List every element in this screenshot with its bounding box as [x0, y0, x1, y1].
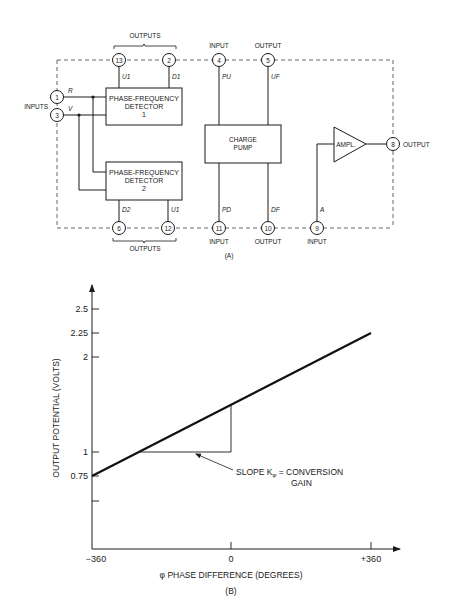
pin-8: 8	[391, 141, 395, 148]
y-tick-0-75: 0.75	[70, 471, 88, 481]
x-tick-minus-360: −360	[86, 554, 106, 564]
pin-10-role: OUTPUT	[255, 238, 282, 245]
x-tick-plus-360: +360	[361, 554, 381, 564]
pin-13: 13	[115, 57, 123, 64]
pfd1-block: PHASE-FREQUENCY DETECTOR 1	[106, 88, 182, 125]
pfd2-number: 2	[142, 185, 146, 192]
pfd1-label: DETECTOR	[125, 103, 163, 110]
pin-2: 2	[167, 57, 171, 64]
inputs-label: INPUTS	[24, 103, 49, 110]
charge-pump-label: PUMP	[234, 144, 253, 151]
y-axis-label: OUTPUT POTENTIAL (VOLTS)	[51, 358, 61, 477]
transfer-line	[92, 333, 371, 476]
pin-4-role: INPUT	[209, 42, 229, 49]
pin-6: 6	[117, 225, 121, 232]
slope-annotation-gain: GAIN	[291, 478, 312, 488]
signal-r: R	[68, 87, 73, 94]
caption-b: (B)	[225, 586, 237, 596]
pin-10: 10	[264, 225, 272, 232]
y-tick-2-25: 2.25	[70, 328, 88, 338]
annotation-arrow	[196, 454, 233, 470]
y-tick-2-5: 2.5	[75, 304, 88, 314]
amplifier-label: AMPL.	[336, 141, 356, 148]
junction-dots	[77, 95, 94, 116]
signal-pu: PU	[222, 73, 231, 80]
signal-v: V	[68, 105, 73, 112]
outputs-bottom-label: OUTPUTS	[129, 245, 161, 252]
pin-11-role: INPUT	[209, 238, 229, 245]
signal-uf: UF	[271, 73, 281, 80]
pin-9-role: INPUT	[307, 238, 327, 245]
signal-df: DF	[271, 206, 281, 213]
signal-u1-top: U1	[122, 73, 131, 80]
y-tick-labels: 2.5 2.25 2 1 0.75	[70, 304, 88, 481]
x-axis-label: φ PHASE DIFFERENCE (DEGREES)	[160, 570, 303, 580]
pin-11: 11	[216, 225, 223, 232]
y-tick-1: 1	[83, 447, 88, 457]
signal-d1: D1	[172, 73, 181, 80]
pfd2-block: PHASE-FREQUENCY DETECTOR 2	[106, 162, 182, 200]
amplifier-block: AMPL.	[334, 127, 366, 162]
pin-9: 9	[315, 225, 319, 232]
x-tick-0: 0	[228, 554, 233, 564]
signal-u1-bottom: U1	[171, 206, 180, 213]
x-ticks	[231, 542, 371, 549]
pin-5-role: OUTPUT	[255, 42, 282, 49]
outputs-brace-top	[114, 44, 176, 49]
charge-pump-label: CHARGE	[229, 136, 257, 143]
block-diagram: PHASE-FREQUENCY DETECTOR 1 PHASE-FREQUEN…	[24, 32, 430, 260]
pfd2-label: PHASE-FREQUENCY	[109, 169, 179, 177]
outputs-top-label: OUTPUTS	[129, 32, 161, 39]
pfd1-label: PHASE-FREQUENCY	[109, 95, 179, 103]
caption-a: (A)	[225, 252, 234, 260]
transfer-chart: 2.5 2.25 2 1 0.75 −360 0 +360 SLOPE Kφ =…	[51, 285, 400, 596]
signal-pd: PD	[222, 206, 231, 213]
pin-8-role: OUTPUT	[403, 141, 430, 148]
pfd2-label: DETECTOR	[125, 177, 163, 184]
signal-a: A	[319, 206, 324, 213]
pin-1: 1	[55, 94, 59, 101]
y-tick-2: 2	[83, 352, 88, 362]
pin-5: 5	[266, 57, 270, 64]
pin-12: 12	[164, 225, 172, 232]
slope-annotation: SLOPE Kφ = CONVERSION	[236, 467, 343, 478]
charge-pump-block: CHARGE PUMP	[205, 125, 281, 163]
pin-4: 4	[217, 57, 221, 64]
pfd1-number: 1	[142, 111, 146, 118]
x-tick-labels: −360 0 +360	[86, 554, 381, 564]
outputs-brace-bottom	[113, 238, 176, 243]
signal-d2: D2	[122, 206, 131, 213]
figure-canvas: PHASE-FREQUENCY DETECTOR 1 PHASE-FREQUEN…	[0, 0, 452, 609]
pin-3: 3	[55, 112, 59, 119]
